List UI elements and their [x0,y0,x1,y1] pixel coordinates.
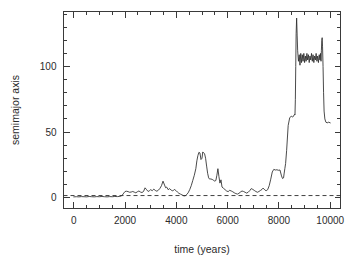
y-axis-title: semimajor axis [9,75,21,145]
y-tick-label: 0 [51,192,57,203]
figure-container: 0200040006000800010000 050100 time (year… [0,0,359,265]
x-axis-major-ticks [74,12,330,209]
x-tick-label: 4000 [165,215,188,226]
data-series-semimajor-axis [74,18,330,197]
plot-frame [64,12,341,209]
semimajor-axis-time-plot: 0200040006000800010000 050100 time (year… [0,0,359,265]
x-axis-title: time (years) [174,243,229,255]
x-tick-label: 8000 [268,215,291,226]
x-axis-tick-labels: 0200040006000800010000 [71,215,345,226]
x-tick-label: 6000 [217,215,240,226]
y-axis-tick-labels: 050100 [40,61,57,203]
x-tick-label: 10000 [316,215,344,226]
x-tick-label: 0 [71,215,77,226]
x-tick-label: 2000 [114,215,137,226]
y-tick-label: 100 [40,61,57,72]
y-axis-major-ticks [64,67,341,198]
y-tick-label: 50 [45,127,57,138]
